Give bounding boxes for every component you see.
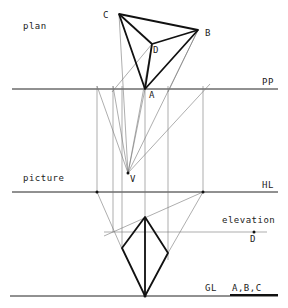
picture-label: picture (23, 173, 64, 183)
projection-verticals (97, 86, 203, 296)
gl-label: GL (205, 283, 217, 293)
elevation-label: elevation (222, 215, 275, 225)
pp-label: PP (262, 77, 274, 87)
plan-label: plan (23, 21, 47, 31)
elevation-d-label: D (250, 234, 256, 244)
point-c-label: C (103, 10, 109, 20)
hl-label: HL (262, 180, 274, 190)
point-a-label: A (149, 90, 155, 100)
points (96, 172, 256, 298)
perspective-drawing (0, 0, 288, 308)
point-v-label: V (130, 174, 136, 184)
abc-label: A,B,C (232, 283, 262, 293)
point-b-label: B (205, 28, 211, 38)
picture-pyramid (122, 217, 168, 296)
point-d-label: D (153, 45, 159, 55)
